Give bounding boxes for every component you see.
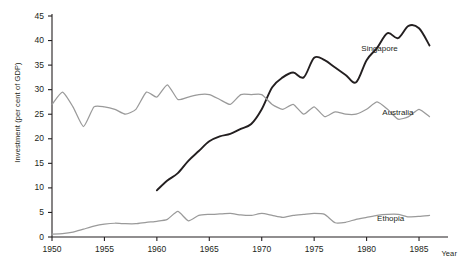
series-line-ethopia [52, 211, 430, 234]
series-label-singapore: Singapore [361, 44, 397, 53]
series-label-australia: Australia [382, 108, 413, 117]
investment-gdp-line-chart: Investment (per cent of GDP) Year 051015… [0, 0, 463, 261]
series-line-australia [52, 85, 430, 127]
series-label-ethopia: Ethopia [377, 214, 404, 223]
